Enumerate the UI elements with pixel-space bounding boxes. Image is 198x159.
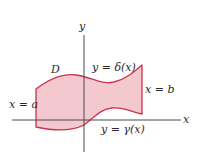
double-integral-region-diagram: y x D y = δ(x) x = b x = a y = γ(x)	[0, 0, 198, 159]
bottom-boundary-label: y = γ(x)	[101, 124, 145, 135]
region-label: D	[51, 64, 60, 75]
right-boundary-label: x = b	[145, 84, 174, 95]
diagram-canvas	[0, 0, 198, 159]
top-boundary-label: y = δ(x)	[92, 62, 136, 73]
x-axis-label: x	[183, 114, 189, 125]
left-boundary-label: x = a	[9, 99, 38, 110]
y-axis-label: y	[79, 21, 85, 32]
